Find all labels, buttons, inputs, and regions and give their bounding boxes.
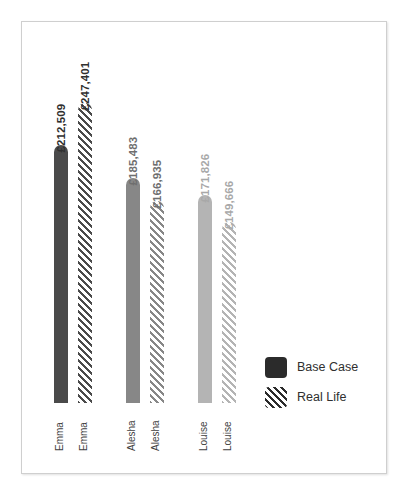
legend-item-real-life[interactable]: Real Life xyxy=(265,382,375,412)
value-label-alesha-real-life: £166,935 xyxy=(152,160,164,209)
value-label-emma-real-life: £247,401 xyxy=(80,62,92,111)
legend-swatch-real-life xyxy=(265,387,287,408)
bar-emma-real-life[interactable] xyxy=(78,103,92,403)
category-label-alesha-real-life: Alesha xyxy=(151,420,161,451)
value-label-alesha-base-case: £185,483 xyxy=(128,137,140,186)
category-label-louise-real-life: Louise xyxy=(223,422,233,451)
category-label-emma-real-life: Emma xyxy=(79,422,89,451)
legend-swatch-base-case xyxy=(265,357,287,378)
category-label-alesha-base-case: Alesha xyxy=(127,420,137,451)
category-label-emma-base-case: Emma xyxy=(55,422,65,451)
value-label-louise-real-life: £149,666 xyxy=(224,181,236,230)
value-label-emma-base-case: £212,509 xyxy=(56,104,68,153)
legend-item-base-case[interactable]: Base Case xyxy=(265,352,375,382)
bar-louise-real-life[interactable] xyxy=(222,222,236,403)
legend-label-real-life: Real Life xyxy=(297,390,346,404)
bar-alesha-real-life[interactable] xyxy=(150,201,164,403)
category-label-louise-base-case: Louise xyxy=(199,422,209,451)
value-label-louise-base-case: £171,826 xyxy=(200,154,212,203)
bar-alesha-base-case[interactable] xyxy=(126,178,140,403)
bar-louise-base-case[interactable] xyxy=(198,195,212,403)
chart-legend: Base Case Real Life xyxy=(265,352,375,412)
bar-emma-base-case[interactable] xyxy=(54,145,68,403)
legend-label-base-case: Base Case xyxy=(297,360,358,374)
chart-frame: £212,509 Emma £247,401 Emma £185,483 Ale… xyxy=(21,21,387,474)
plot-area: £212,509 Emma £247,401 Emma £185,483 Ale… xyxy=(22,22,386,473)
